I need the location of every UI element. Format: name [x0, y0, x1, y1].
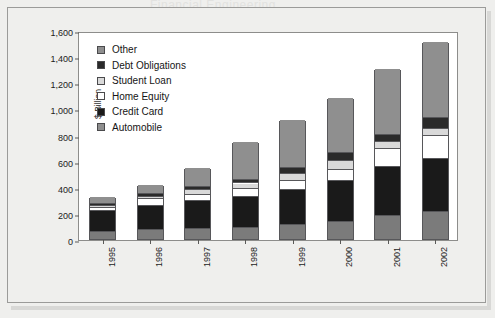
y-tick-label: 1,200 — [27, 80, 79, 90]
x-tick-mark — [388, 240, 389, 244]
figure-shadow-right — [487, 11, 491, 310]
segment-student-loan — [423, 129, 448, 136]
segment-other — [138, 185, 163, 194]
y-tick-mark — [75, 33, 79, 34]
segment-credit-card — [328, 181, 353, 222]
bar-1998[interactable] — [232, 143, 259, 240]
segment-student-loan — [185, 190, 210, 195]
x-tick-label-1997: 1997 — [202, 247, 212, 267]
bar-1996[interactable] — [137, 186, 164, 240]
legend-item-credit-card[interactable]: Credit Card — [97, 104, 186, 120]
y-tick-mark — [75, 85, 79, 86]
legend-swatch-icon — [97, 77, 105, 85]
y-tick-label: 1,000 — [27, 106, 79, 116]
bar-1997[interactable] — [184, 169, 211, 240]
segment-home-equity — [423, 136, 448, 160]
segment-automobile — [328, 222, 353, 239]
figure-root: Financial Engineering $ Billion 1,6001,4… — [0, 0, 495, 318]
bar-1999[interactable] — [279, 121, 306, 240]
y-tick-label: 1,400 — [27, 54, 79, 64]
legend-label: Home Equity — [112, 91, 169, 102]
segment-debt-obligations — [233, 180, 258, 184]
segment-automobile — [280, 225, 305, 239]
legend-label: Student Loan — [112, 75, 172, 86]
segment-credit-card — [185, 201, 210, 229]
segment-other — [375, 69, 400, 135]
segment-other — [280, 120, 305, 168]
bar-2000[interactable] — [327, 99, 354, 240]
plot-area: $ Billion 1,6001,4001,2001,0008006004002… — [78, 32, 458, 241]
segment-other — [233, 142, 258, 179]
y-tick-label: 1,600 — [27, 28, 79, 38]
y-tick-mark — [75, 163, 79, 164]
segment-home-equity — [90, 208, 115, 211]
segment-debt-obligations — [375, 135, 400, 143]
legend-label: Credit Card — [112, 106, 163, 117]
legend-swatch-icon — [97, 108, 105, 116]
segment-home-equity — [138, 199, 163, 206]
bar-1995[interactable] — [89, 198, 116, 240]
legend-swatch-icon — [97, 123, 105, 131]
x-tick-mark — [435, 240, 436, 244]
y-tick-label: 200 — [27, 211, 79, 221]
bar-2002[interactable] — [422, 43, 449, 240]
segment-automobile — [375, 216, 400, 240]
segment-automobile — [90, 232, 115, 239]
segment-other — [90, 197, 115, 204]
segment-other — [185, 168, 210, 186]
legend-swatch-icon — [97, 61, 105, 69]
legend-item-other[interactable]: Other — [97, 42, 186, 58]
segment-student-loan — [138, 197, 163, 200]
x-tick-label-2000: 2000 — [344, 247, 354, 267]
x-tick-mark — [198, 240, 199, 244]
segment-automobile — [233, 228, 258, 239]
x-tick-label-1998: 1998 — [249, 247, 259, 267]
x-tick-mark — [340, 240, 341, 244]
segment-automobile — [185, 229, 210, 239]
y-tick-label: 400 — [27, 185, 79, 195]
legend-swatch-icon — [97, 92, 105, 100]
legend-item-home-equity[interactable]: Home Equity — [97, 89, 186, 105]
x-tick-label-1995: 1995 — [107, 247, 117, 267]
segment-student-loan — [280, 174, 305, 181]
segment-student-loan — [375, 142, 400, 149]
segment-credit-card — [138, 206, 163, 230]
segment-student-loan — [233, 184, 258, 190]
legend-item-debt-obligations[interactable]: Debt Obligations — [97, 58, 186, 74]
segment-credit-card — [375, 167, 400, 216]
y-tick-label: 0 — [27, 237, 79, 247]
segment-debt-obligations — [138, 194, 163, 197]
segment-credit-card — [280, 190, 305, 225]
x-tick-label-1999: 1999 — [297, 247, 307, 267]
legend-swatch-icon — [97, 46, 105, 54]
legend-label: Debt Obligations — [112, 60, 186, 71]
x-tick-mark — [150, 240, 151, 244]
segment-debt-obligations — [280, 168, 305, 174]
y-tick-mark — [75, 215, 79, 216]
segment-other — [423, 42, 448, 117]
y-tick-label: 800 — [27, 133, 79, 143]
segment-student-loan — [328, 161, 353, 169]
segment-home-equity — [185, 195, 210, 202]
segment-credit-card — [233, 197, 258, 228]
y-tick-mark — [75, 59, 79, 60]
segment-debt-obligations — [423, 118, 448, 129]
segment-automobile — [423, 212, 448, 239]
bar-2001[interactable] — [374, 70, 401, 240]
y-tick-mark — [75, 137, 79, 138]
segment-credit-card — [90, 211, 115, 233]
chart-legend: OtherDebt ObligationsStudent LoanHome Eq… — [97, 42, 186, 135]
segment-debt-obligations — [328, 153, 353, 161]
x-tick-mark — [293, 240, 294, 244]
x-tick-label-2001: 2001 — [392, 247, 402, 267]
legend-label: Automobile — [112, 122, 162, 133]
legend-item-student-loan[interactable]: Student Loan — [97, 73, 186, 89]
x-tick-label-1996: 1996 — [154, 247, 164, 267]
y-tick-label: 600 — [27, 159, 79, 169]
x-tick-mark — [103, 240, 104, 244]
legend-item-automobile[interactable]: Automobile — [97, 120, 186, 136]
y-tick-mark — [75, 189, 79, 190]
segment-credit-card — [423, 159, 448, 211]
x-tick-label-2002: 2002 — [439, 247, 449, 267]
segment-home-equity — [233, 189, 258, 196]
